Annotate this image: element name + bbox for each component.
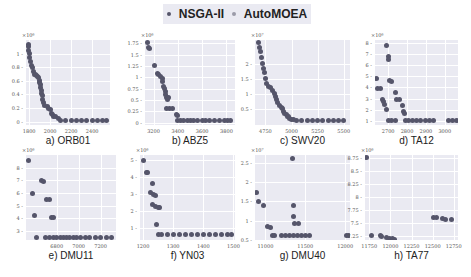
y-tick-label: 1.75 - xyxy=(124,40,142,46)
data-point xyxy=(299,118,304,123)
axis-exponent: ×10⁷ xyxy=(251,147,264,153)
data-point xyxy=(418,118,423,123)
subplot-title: f) YN03 xyxy=(133,250,243,261)
y-tick-label: 0.5 - xyxy=(124,97,142,103)
gridline xyxy=(140,177,235,178)
gridline xyxy=(344,40,345,125)
gridline xyxy=(433,155,434,240)
legend-item-nsga2: NSGA-II xyxy=(167,7,224,21)
y-tick-label: 2.5 - xyxy=(234,160,252,166)
y-tick-label: 0 - xyxy=(124,120,142,126)
data-point xyxy=(305,118,310,123)
y-tick-label: 6 - xyxy=(354,62,372,68)
data-point xyxy=(95,118,100,123)
plot-area xyxy=(140,155,235,240)
data-point xyxy=(454,118,458,123)
data-point xyxy=(201,232,206,237)
data-point xyxy=(145,170,150,175)
gridline xyxy=(203,155,204,240)
axis-exponent: ×10⁶ xyxy=(371,32,384,38)
data-point xyxy=(159,232,164,237)
gridline xyxy=(140,211,235,212)
data-point xyxy=(341,118,346,123)
data-point xyxy=(272,233,277,238)
data-point xyxy=(141,158,146,163)
y-tick-label: 0.6 - xyxy=(5,78,23,84)
y-tick-label: 3 - xyxy=(354,96,372,102)
data-point xyxy=(213,232,218,237)
gridline xyxy=(92,40,93,125)
y-tick-label: 1.5 - xyxy=(234,198,252,204)
data-point xyxy=(90,118,95,123)
data-point xyxy=(326,118,331,123)
gridline xyxy=(143,155,144,240)
data-point xyxy=(69,118,74,123)
y-tick-label: 8 - xyxy=(5,165,23,171)
data-point xyxy=(290,156,295,161)
axis-exponent: ×10⁶ xyxy=(361,147,374,153)
y-tick-label: 8.75 - xyxy=(344,155,362,161)
data-point xyxy=(157,205,162,210)
data-point xyxy=(195,232,200,237)
data-point xyxy=(219,232,224,237)
y-tick-label: 8 - xyxy=(344,194,362,200)
data-point xyxy=(98,235,103,240)
plot-area xyxy=(145,40,235,125)
y-tick-label: 4 - xyxy=(119,174,137,180)
y-tick-label: 4 - xyxy=(5,215,23,221)
gridline xyxy=(71,40,72,125)
automoea-marker-icon xyxy=(232,12,236,16)
data-point xyxy=(443,217,448,222)
data-point xyxy=(378,86,383,91)
data-point xyxy=(393,90,398,95)
y-tick-label: 4 - xyxy=(354,84,372,90)
x-tick-label: 7200 xyxy=(89,243,113,249)
x-tick-label: 3000 xyxy=(433,128,457,134)
gridline xyxy=(154,40,155,125)
gridline xyxy=(407,40,408,125)
x-tick-label: 2400 xyxy=(80,128,104,134)
x-tick-label: 5250 xyxy=(306,128,330,134)
y-tick-label: 1 - xyxy=(5,51,23,57)
gridline xyxy=(369,155,370,240)
data-point xyxy=(170,106,175,111)
legend: NSGA-II AutoMOEA xyxy=(163,4,311,24)
data-point xyxy=(109,235,114,240)
data-point xyxy=(104,235,109,240)
x-tick-label: 6800 xyxy=(45,243,69,249)
data-point xyxy=(166,95,171,100)
gridline xyxy=(426,40,427,125)
data-point xyxy=(449,217,454,222)
gridline xyxy=(390,155,391,240)
data-point xyxy=(171,232,176,237)
y-tick-label: 0.75 - xyxy=(124,86,142,92)
gridline xyxy=(26,54,110,55)
data-point xyxy=(389,79,394,84)
gridline xyxy=(26,168,116,169)
axis-exponent: ×10⁶ xyxy=(22,147,35,153)
gridline xyxy=(26,206,116,207)
y-tick-label: 7 - xyxy=(5,177,23,183)
data-point xyxy=(384,107,389,112)
data-point xyxy=(51,215,56,220)
legend-item-automoea: AutoMOEA xyxy=(232,7,307,21)
x-tick-label: 7000 xyxy=(67,243,91,249)
gridline xyxy=(145,55,235,56)
x-tick-label: 1500 xyxy=(221,243,245,249)
gridline xyxy=(255,109,350,110)
nsga2-marker-icon xyxy=(167,12,171,16)
data-point xyxy=(152,63,157,68)
x-tick-label: 3800 xyxy=(214,128,238,134)
data-point xyxy=(74,118,79,123)
data-point xyxy=(147,46,152,51)
y-tick-label: 5 - xyxy=(5,203,23,209)
y-tick-label: 2 - xyxy=(119,208,137,214)
x-tick-label: 5500 xyxy=(332,128,356,134)
gridline xyxy=(57,155,58,240)
x-tick-label: 3200 xyxy=(142,128,166,134)
y-tick-label: 2 - xyxy=(234,179,252,185)
data-point xyxy=(175,113,180,118)
data-point xyxy=(47,197,52,202)
plot-area xyxy=(26,40,110,125)
x-tick-label: 4750 xyxy=(253,128,277,134)
